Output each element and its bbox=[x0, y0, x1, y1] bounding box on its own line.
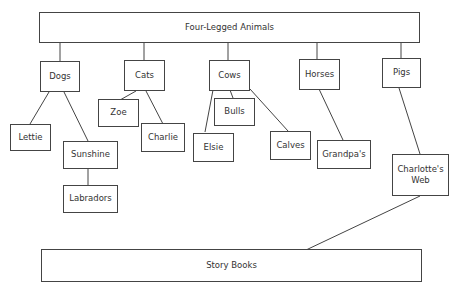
node-grandpas: Grandpa's bbox=[317, 140, 371, 169]
node-bulls: Bulls bbox=[214, 98, 255, 126]
node-sunshine: Sunshine bbox=[63, 141, 118, 169]
node-four-legged-animals: Four-Legged Animals bbox=[39, 12, 420, 43]
node-cats: Cats bbox=[124, 60, 165, 91]
node-horses: Horses bbox=[299, 59, 340, 90]
node-charlottes-web: Charlotte's Web bbox=[392, 154, 449, 196]
node-lettie: Lettie bbox=[10, 124, 51, 151]
concept-map: Four-Legged Animals Dogs Cats Cows Horse… bbox=[0, 0, 458, 283]
node-cows: Cows bbox=[209, 60, 250, 91]
node-pigs: Pigs bbox=[382, 58, 421, 88]
node-labradors: Labradors bbox=[63, 185, 118, 213]
node-dogs: Dogs bbox=[40, 61, 80, 92]
node-zoe: Zoe bbox=[98, 99, 139, 127]
node-charlie: Charlie bbox=[141, 123, 185, 152]
node-calves: Calves bbox=[270, 131, 311, 160]
node-elsie: Elsie bbox=[193, 133, 234, 162]
node-story-books: Story Books bbox=[41, 249, 422, 282]
